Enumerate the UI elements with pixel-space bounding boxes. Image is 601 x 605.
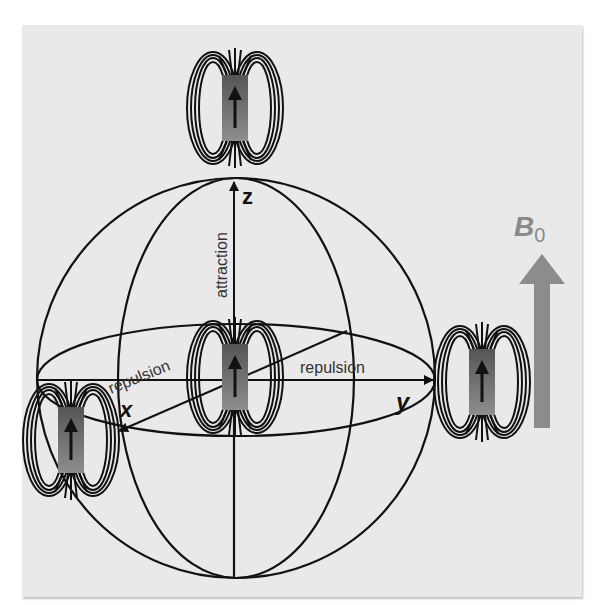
- x-axis: [119, 380, 236, 431]
- magnet-right: [434, 322, 530, 442]
- sphere-diagram: z y x attraction repulsion repulsion B0: [0, 0, 601, 605]
- y-axis-label: y: [395, 388, 411, 415]
- z-axis-label: z: [242, 184, 253, 209]
- field-label: B0: [514, 211, 545, 246]
- magnet-center: [187, 317, 283, 437]
- x-axis-label: x: [119, 397, 133, 422]
- attraction-label: attraction: [213, 232, 230, 298]
- axes: [119, 182, 433, 431]
- field-symbol: B: [514, 211, 534, 242]
- field-arrow-icon: [519, 254, 565, 428]
- repulsion-x-label: repulsion: [106, 357, 173, 397]
- field-subscript: 0: [534, 224, 545, 246]
- repulsion-y-label: repulsion: [300, 359, 365, 376]
- magnet-top: [187, 48, 283, 168]
